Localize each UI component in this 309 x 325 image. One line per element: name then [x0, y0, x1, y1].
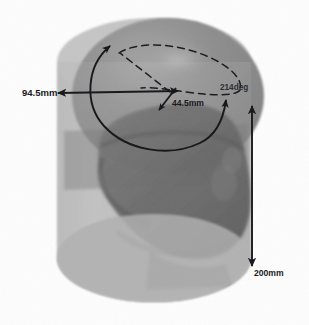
figure-root: 94.5mm 44.5mm 214deg 200mm	[0, 0, 309, 325]
scan-grain-overlay	[0, 0, 309, 325]
head-coil-geometry-diagram: 94.5mm 44.5mm 214deg 200mm	[0, 0, 309, 325]
